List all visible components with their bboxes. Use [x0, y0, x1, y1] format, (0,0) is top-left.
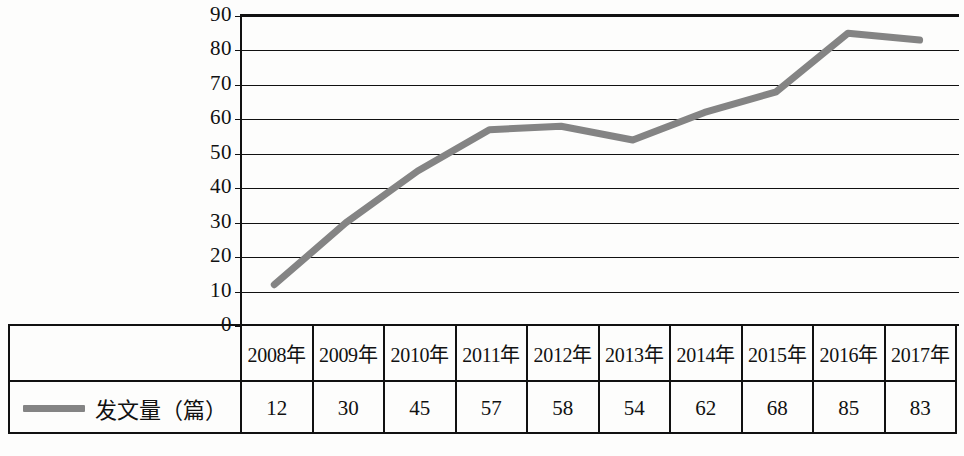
- table-value-cell: 62: [669, 382, 741, 434]
- table-header-cell-year: 2014年: [669, 326, 741, 380]
- table-value-cell: 54: [598, 382, 670, 434]
- table-header-cell-year: 2010年: [383, 326, 455, 380]
- table-header-cell-year: 2011年: [455, 326, 527, 380]
- y-tick-label: 30: [182, 211, 232, 232]
- legend-line-swatch: [23, 405, 85, 412]
- y-axis-tick: [235, 188, 242, 189]
- table-header-cell-year: 2015年: [741, 326, 813, 380]
- y-axis-tick: [235, 292, 242, 293]
- y-axis-tick: [235, 154, 242, 155]
- table-value-cell: 57: [455, 382, 527, 434]
- table-header-cell-year: 2008年: [240, 326, 312, 380]
- table-value-row: 发文量（篇） 12304557585462688583: [10, 380, 955, 434]
- y-axis-tick: [235, 119, 242, 120]
- table-header-cell-year: 2017年: [884, 326, 956, 380]
- y-axis-tick: [235, 85, 242, 86]
- series-line-发文量: [274, 33, 919, 285]
- table-header-row: 2008年2009年2010年2011年2012年2013年2014年2015年…: [10, 326, 955, 380]
- legend-label: 发文量（篇）: [95, 392, 227, 424]
- y-tick-label: 70: [182, 73, 232, 94]
- series-line-chart: [242, 16, 959, 326]
- table-header-cell-year: 2009年: [312, 326, 384, 380]
- y-tick-label: 10: [182, 280, 232, 301]
- y-tick-label: 40: [182, 176, 232, 197]
- y-axis-tick: [235, 16, 242, 17]
- y-tick-label: 50: [182, 142, 232, 163]
- table-value-cell: 45: [383, 382, 455, 434]
- chart-plot-region: 9080706050403020100: [0, 0, 964, 330]
- table-header-cell-year: 2013年: [598, 326, 670, 380]
- y-axis-tick-labels: 9080706050403020100: [182, 0, 232, 330]
- y-axis-tick: [235, 50, 242, 51]
- data-table: 2008年2009年2010年2011年2012年2013年2014年2015年…: [8, 324, 957, 434]
- y-tick-label: 90: [182, 4, 232, 25]
- table-value-cell: 68: [741, 382, 813, 434]
- table-value-cell: 58: [526, 382, 598, 434]
- chart-page: 9080706050403020100 2008年2009年2010年2011年…: [0, 0, 964, 456]
- y-axis-tick: [235, 257, 242, 258]
- table-value-cell: 30: [312, 382, 384, 434]
- table-value-cell: 12: [240, 382, 312, 434]
- table-value-cell: 85: [812, 382, 884, 434]
- legend-entry: 发文量（篇）: [10, 382, 240, 434]
- plot-area: [240, 14, 959, 326]
- y-tick-label: 80: [182, 38, 232, 59]
- header-spacer-cell: [10, 326, 240, 380]
- table-header-cell-year: 2012年: [526, 326, 598, 380]
- y-axis-tick: [235, 223, 242, 224]
- table-header-cell-year: 2016年: [812, 326, 884, 380]
- table-value-cell: 83: [884, 382, 956, 434]
- y-tick-label: 60: [182, 107, 232, 128]
- y-tick-label: 20: [182, 245, 232, 266]
